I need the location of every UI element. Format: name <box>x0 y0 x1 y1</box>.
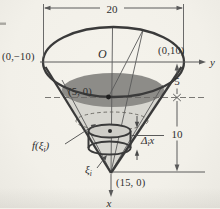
label-left-rim-point: (0,−10) <box>2 51 35 63</box>
radius-label-post: ) <box>45 139 50 152</box>
y-axis-arrow-icon <box>199 60 206 65</box>
radius-label-pre: f(ξ <box>32 139 44 152</box>
dim-10-arrow-down-icon <box>175 165 180 172</box>
origin-label: O <box>98 47 107 61</box>
x-axis-label: x <box>106 197 112 209</box>
y-axis-label: y <box>209 56 215 68</box>
thickness-label: Δix <box>140 134 155 148</box>
label-apex-point: (15, 0) <box>116 177 146 189</box>
dim-10-label: 10 <box>172 128 184 140</box>
depth-leader-line <box>97 158 105 168</box>
thickness-arrow-up-icon <box>135 150 139 156</box>
dim-20-arrow-right-icon <box>177 6 184 11</box>
dim-5-label: 5 <box>174 75 180 87</box>
thickness-label-post: x <box>149 135 155 146</box>
disk-center-dot <box>108 129 112 133</box>
label-water-level-point: (5, 0) <box>68 86 92 98</box>
dimension-lower-depth: 10 <box>172 101 184 172</box>
dim-20-arrow-left-icon <box>44 6 51 11</box>
water-point-dot <box>106 95 111 100</box>
depth-label-sub: i <box>90 169 92 178</box>
depth-label: ξi <box>85 163 92 178</box>
scan-artifact-mark <box>0 23 6 25</box>
label-right-rim-point: (0,10) <box>158 45 185 57</box>
radius-label: f(ξi) <box>32 139 50 154</box>
thickness-label-pre: Δ <box>140 134 147 146</box>
figure-canvas: 20 5 10 (0,−10) (0,10) O y x (5, 0) (15,… <box>0 0 220 208</box>
cone-diagram: 20 5 10 (0,−10) (0,10) O y x (5, 0) (15,… <box>0 0 220 208</box>
dim-20-label: 20 <box>107 3 119 15</box>
